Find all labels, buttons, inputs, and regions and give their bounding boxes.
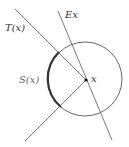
- point-x: [84, 78, 87, 81]
- label-arc: S(x): [19, 75, 39, 85]
- line-lower: [25, 80, 86, 141]
- label-point: x: [91, 74, 97, 84]
- label-normal: Ex: [65, 10, 78, 20]
- label-tangent: T(x): [5, 23, 25, 33]
- arc-s-x: [48, 52, 61, 107]
- line-ex: [58, 11, 112, 140]
